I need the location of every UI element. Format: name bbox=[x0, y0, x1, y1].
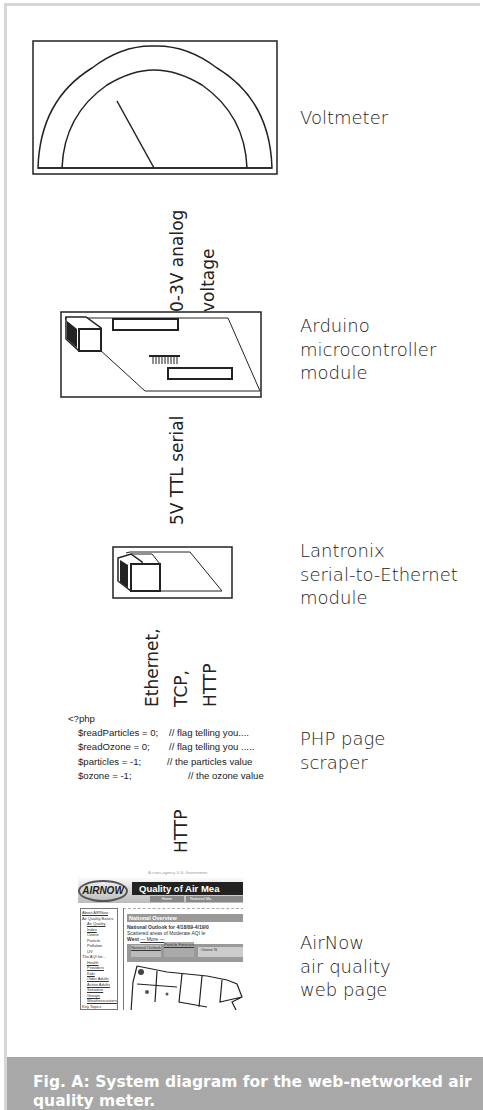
connection-label-ethernet: Ethernet, TCP, HTTP bbox=[138, 628, 225, 707]
us-map bbox=[127, 962, 243, 1010]
webpage-screenshot: A cross-agency U.S. Government AIRNOW Qu… bbox=[78, 868, 243, 1010]
airnow-banner: Quality of Air Mea bbox=[132, 882, 243, 895]
airnow-sidebar: About AIRNow Air Quality Basics Air Qual… bbox=[80, 908, 118, 1010]
connection-label-serial: 5V TTL serial bbox=[162, 416, 193, 525]
php-code-snippet: <?php $readParticles = 0;// flag telling… bbox=[70, 712, 264, 783]
voltmeter-icon bbox=[32, 40, 280, 176]
arduino-label: Arduino microcontroller module bbox=[300, 314, 436, 385]
php-label: PHP page scraper bbox=[300, 727, 385, 774]
lantronix-label: Lantronix serial-to-Ethernet module bbox=[300, 539, 458, 610]
airnow-logo: AIRNOW bbox=[78, 880, 128, 902]
php-line: $readOzone = 0;// flag telling you ..... bbox=[70, 740, 264, 754]
connection-label-http: HTTP bbox=[166, 809, 197, 853]
php-line: $readParticles = 0;// flag telling you..… bbox=[70, 726, 264, 740]
php-line: $particles = -1;// the particles value bbox=[70, 755, 264, 769]
connection-label-analog: 0-3V analog voltage bbox=[162, 210, 224, 312]
php-open-tag: <?php bbox=[68, 712, 264, 726]
php-line: $ozone = -1;// the ozone value bbox=[70, 769, 264, 783]
airnow-label: AirNow air quality web page bbox=[300, 931, 391, 1002]
voltmeter-label: Voltmeter bbox=[300, 106, 388, 130]
circuit-board-icon bbox=[60, 311, 262, 399]
figure-caption: Fig. A: System diagram for the web-netwo… bbox=[7, 1057, 483, 1110]
ethernet-module-icon bbox=[112, 546, 234, 601]
